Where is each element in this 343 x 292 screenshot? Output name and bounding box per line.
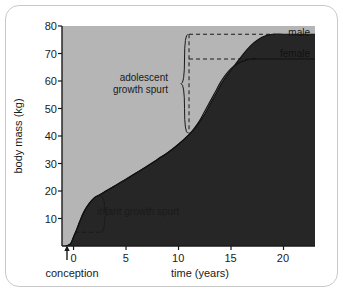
y-tick-label-60: 60: [45, 75, 57, 87]
x-tick-label-15: 15: [224, 252, 236, 264]
x-axis-title: time (years): [171, 267, 229, 279]
adolescent-label-line2: growth spurt: [113, 84, 168, 95]
legend-label-female: female: [280, 48, 310, 59]
x-tick-label-10: 10: [172, 252, 184, 264]
infant-label: infant growth spurt: [97, 206, 179, 217]
growth-curve-chart: 80 70 60 50 40 30 20 10 0 5 10 15 20 bod…: [0, 0, 343, 292]
y-axis-title: body mass (kg): [12, 98, 24, 173]
adolescent-label-line1: adolescent: [120, 72, 169, 83]
x-tick-label-20: 20: [277, 252, 289, 264]
y-tick-label-50: 50: [45, 103, 57, 115]
x-tick-label-0: 0: [70, 252, 76, 264]
y-tick-label-70: 70: [45, 48, 57, 60]
y-tick-label-40: 40: [45, 130, 57, 142]
y-tick-label-10: 10: [45, 213, 57, 225]
y-tick-label-20: 20: [45, 185, 57, 197]
conception-label: conception: [45, 267, 98, 279]
x-tick-label-5: 5: [123, 252, 129, 264]
legend-label-male: male: [288, 27, 310, 38]
figure-container: 80 70 60 50 40 30 20 10 0 5 10 15 20 bod…: [0, 0, 343, 292]
y-tick-label-80: 80: [45, 20, 57, 32]
y-tick-label-30: 30: [45, 158, 57, 170]
